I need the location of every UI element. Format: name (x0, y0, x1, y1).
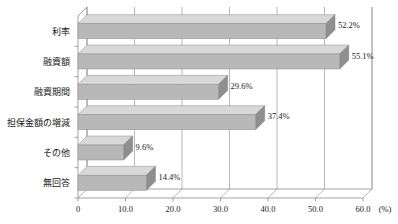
bar-group (78, 75, 228, 99)
bar-group (78, 106, 265, 130)
bar-front-face (78, 84, 219, 99)
category-label: 利率 (52, 26, 70, 37)
category-label: 担保金額の増減 (7, 117, 70, 128)
category-label: 融資額 (43, 56, 70, 67)
bars-group (78, 15, 349, 191)
bar-top-face (78, 45, 349, 54)
x-tick-label: 60.0 (356, 204, 371, 214)
bar-value-label: 14.4% (158, 172, 180, 182)
category-label: 無回答 (43, 177, 70, 188)
bar-front-face (78, 115, 256, 130)
bar-group (78, 166, 155, 190)
x-tick-label: 0 (76, 204, 80, 214)
x-axis-unit-label: (%) (379, 204, 392, 214)
bar-front-face (78, 54, 340, 69)
category-label: 融資期間 (34, 86, 70, 97)
bar-value-label: 52.2% (338, 20, 360, 30)
bar-chart: 利率融資額融資期間担保金額の増減その他無回答 010.020.030.040.0… (0, 0, 398, 224)
category-labels-group: 利率融資額融資期間担保金額の増減その他無回答 (7, 26, 70, 189)
gridline-depth-connector (173, 189, 182, 198)
bar-group (78, 15, 335, 39)
bar-value-label: 37.4% (268, 111, 290, 121)
bar-value-label: 55.1% (352, 51, 374, 61)
bar-top-face (78, 75, 228, 84)
y-axis-top-connector (78, 7, 87, 16)
bar-top-face (78, 106, 265, 115)
bar-value-label: 29.6% (231, 81, 253, 91)
bar-top-face (78, 166, 155, 175)
bar-front-face (78, 175, 146, 190)
bar-value-label: 9.6% (136, 142, 154, 152)
x-tick-label: 40.0 (261, 204, 276, 214)
x-tick-labels-group: 010.020.030.040.050.060.0(%) (76, 204, 392, 214)
x-tick-label: 10.0 (118, 204, 133, 214)
x-tick-label: 50.0 (308, 204, 323, 214)
bar-front-face (78, 24, 326, 39)
bar-top-face (78, 136, 133, 145)
bar-group (78, 45, 349, 69)
gridline-depth-connector (268, 189, 277, 198)
value-labels-group: 52.2%55.1%29.6%37.4%9.6%14.4% (136, 20, 374, 182)
chart-container: 利率融資額融資期間担保金額の増減その他無回答 010.020.030.040.0… (0, 0, 398, 224)
gridline-depth-connector (363, 189, 372, 198)
category-label: その他 (43, 147, 70, 158)
gridline-depth-connector (221, 189, 230, 198)
bar-front-face (78, 145, 124, 160)
bar-group (78, 136, 133, 160)
bar-top-face (78, 15, 335, 24)
x-tick-label: 30.0 (213, 204, 228, 214)
x-tick-label: 20.0 (166, 204, 181, 214)
gridline-depth-connector (316, 189, 325, 198)
